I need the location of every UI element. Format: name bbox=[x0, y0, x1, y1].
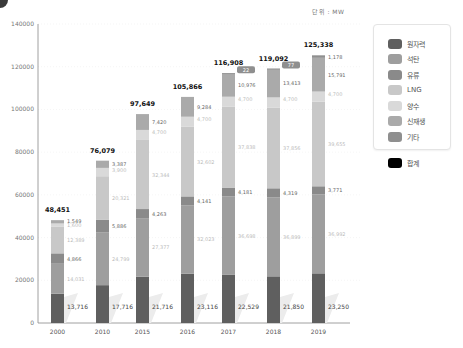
bar-segment bbox=[51, 264, 64, 294]
segment-label: 36,899 bbox=[283, 234, 301, 240]
segment-label: 4,141 bbox=[197, 198, 211, 204]
legend-item-oil: 유류 bbox=[388, 70, 419, 80]
x-tick-label: 2018 bbox=[266, 328, 281, 335]
segment-label: 4,181 bbox=[238, 189, 252, 195]
bar-segment bbox=[222, 197, 235, 275]
segment-label: 10,976 bbox=[238, 82, 256, 88]
y-tick-label: 0 bbox=[30, 319, 34, 326]
total-label: 105,866 bbox=[173, 83, 203, 91]
y-tick-label: 120000 bbox=[11, 63, 34, 70]
x-tick-label: 2017 bbox=[221, 328, 236, 335]
bar-segment bbox=[312, 58, 325, 92]
legend-swatch-icon bbox=[388, 158, 402, 168]
legend-swatch-icon bbox=[388, 39, 402, 49]
bar-segment bbox=[222, 73, 235, 74]
bar-segment bbox=[51, 223, 64, 226]
bar-segment bbox=[96, 285, 109, 323]
legend-item-nuclear: 원자력 bbox=[388, 39, 425, 49]
bar-segment bbox=[267, 188, 280, 197]
bar-segment bbox=[267, 107, 280, 188]
y-tick-label: 100000 bbox=[11, 105, 34, 112]
bar-segment bbox=[96, 168, 109, 176]
bar-segment bbox=[96, 176, 109, 219]
segment-label: 4,866 bbox=[67, 256, 81, 262]
segment-label: 9,284 bbox=[197, 104, 211, 110]
segment-label: 20,321 bbox=[112, 195, 130, 201]
bar-segment bbox=[136, 114, 149, 130]
total-label: 116,908 bbox=[214, 59, 244, 67]
bar-segment bbox=[96, 232, 109, 285]
x-tick-label: 2015 bbox=[135, 328, 150, 335]
bar-segment bbox=[181, 274, 194, 323]
legend-swatch-icon bbox=[388, 116, 402, 126]
y-tick-label: 40000 bbox=[15, 234, 34, 241]
bar-segment bbox=[222, 107, 235, 188]
legend-item-pumped-hydro: 양수 bbox=[388, 101, 419, 111]
bar-segment bbox=[267, 69, 280, 70]
segment-label: 5,886 bbox=[112, 223, 126, 229]
segment-label: 77 bbox=[288, 62, 294, 68]
total-label: 97,649 bbox=[130, 100, 156, 108]
y-tick-label: 60000 bbox=[15, 191, 34, 198]
segment-label: 13,413 bbox=[283, 80, 301, 86]
segment-label: 22,529 bbox=[238, 303, 259, 310]
total-label: 119,092 bbox=[259, 55, 289, 63]
bar-segment bbox=[181, 205, 194, 273]
y-tick-label: 80000 bbox=[15, 148, 34, 155]
segment-label: 15,791 bbox=[328, 72, 346, 78]
bar-segment bbox=[136, 130, 149, 140]
segment-label: 1,178 bbox=[328, 54, 342, 60]
bar-segment bbox=[51, 227, 64, 253]
segment-label: 37,856 bbox=[283, 145, 301, 151]
total-label: 125,338 bbox=[304, 41, 334, 49]
segment-label: 23,250 bbox=[328, 303, 349, 310]
segment-label: 37,838 bbox=[238, 144, 256, 150]
segment-label: 4,700 bbox=[283, 96, 297, 102]
segment-label: 21,850 bbox=[283, 303, 304, 310]
x-tick-label: 2016 bbox=[180, 328, 195, 335]
segment-label: 21,716 bbox=[152, 303, 173, 310]
segment-label: 12,389 bbox=[67, 237, 85, 243]
legend-swatch-icon bbox=[388, 54, 402, 64]
bar-segment bbox=[267, 97, 280, 107]
segment-label: 27,377 bbox=[152, 244, 170, 250]
bar-segment bbox=[51, 253, 64, 263]
legend-swatch-icon bbox=[388, 132, 402, 142]
segment-label: 3,771 bbox=[328, 187, 342, 193]
segment-label: 3,900 bbox=[112, 167, 126, 173]
bar-segment bbox=[312, 92, 325, 102]
legend-swatch-icon bbox=[388, 70, 402, 80]
total-label: 48,451 bbox=[45, 206, 71, 214]
segment-label: 3,387 bbox=[112, 161, 126, 167]
bar-segment bbox=[181, 117, 194, 127]
bar-segment bbox=[136, 218, 149, 276]
x-tick-label: 2019 bbox=[311, 328, 326, 335]
bar-segment bbox=[312, 186, 325, 194]
bar-segment bbox=[312, 273, 325, 323]
legend-item-other: 기타 bbox=[388, 132, 419, 142]
segment-label: 24,799 bbox=[112, 256, 130, 262]
legend-item-total: 합계 bbox=[388, 158, 419, 168]
bar-segment bbox=[267, 276, 280, 323]
bar-segment bbox=[136, 277, 149, 323]
bar-segment bbox=[51, 294, 64, 323]
legend-item-coal: 석탄 bbox=[388, 54, 419, 64]
bar-segment bbox=[312, 194, 325, 273]
segment-label: 4,700 bbox=[238, 96, 252, 102]
y-tick-label: 140000 bbox=[11, 20, 34, 27]
bar-segment bbox=[312, 102, 325, 187]
segment-label: 4,700 bbox=[197, 116, 211, 122]
bar-segment bbox=[136, 140, 149, 209]
segment-label: 22 bbox=[243, 67, 249, 73]
segment-label: 7,420 bbox=[152, 119, 166, 125]
segment-label: 14,031 bbox=[67, 276, 85, 282]
bar-segment bbox=[181, 127, 194, 197]
bar-segment bbox=[222, 188, 235, 197]
bar-segment bbox=[181, 97, 194, 117]
segment-label: 4,263 bbox=[152, 211, 166, 217]
legend: 원자력 석탄 유류 LNG 양수 신재생 기타 bbox=[373, 24, 451, 150]
bar-segment bbox=[96, 220, 109, 233]
legend-swatch-icon bbox=[388, 101, 402, 111]
segment-label: 23,116 bbox=[197, 303, 218, 310]
bar-segment bbox=[312, 55, 325, 58]
